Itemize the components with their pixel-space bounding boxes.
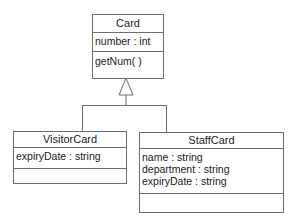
class-visitorcard-name: VisitorCard: [14, 132, 126, 148]
class-card: Card number : int getNum( ): [92, 14, 164, 79]
class-card-operations: getNum( ): [93, 52, 163, 67]
class-staffcard-operations: [140, 194, 283, 197]
attribute: expiryDate : string: [142, 175, 281, 187]
class-card-attributes: number : int: [93, 33, 163, 52]
class-staffcard-name: StaffCard: [140, 133, 283, 149]
attribute: department : string: [142, 163, 281, 175]
attribute: name : string: [142, 151, 281, 163]
attribute: expiryDate : string: [16, 150, 124, 162]
class-visitorcard-attributes: expiryDate : string: [14, 148, 126, 169]
attribute: number : int: [95, 35, 161, 47]
class-staffcard-attributes: name : string department : string expiry…: [140, 149, 283, 194]
class-staffcard: StaffCard name : string department : str…: [139, 132, 284, 213]
class-visitorcard: VisitorCard expiryDate : string: [13, 131, 127, 184]
operation: getNum( ): [95, 55, 161, 67]
class-card-name: Card: [93, 15, 163, 33]
class-visitorcard-operations: [14, 169, 126, 172]
generalization-arrowhead-icon: [119, 78, 133, 95]
